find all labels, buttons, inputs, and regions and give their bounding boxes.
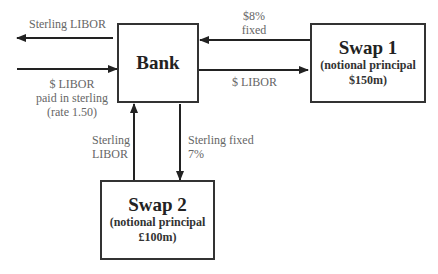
label-swap1-to-bank: $8% fixed: [234, 9, 274, 37]
label-bank-out-left: Sterling LIBOR: [29, 17, 106, 31]
bank-node: Bank: [117, 23, 199, 103]
swap2-subtitle-line2: £100m): [139, 230, 177, 245]
swap1-subtitle-line2: $150m): [349, 73, 387, 88]
label-in-bank-left: $ LIBOR paid in sterling (rate 1.50): [32, 77, 112, 119]
swap2-node: Swap 2 (notional principal £100m): [100, 180, 215, 260]
swap1-node: Swap 1 (notional principal $150m): [310, 23, 426, 103]
swap2-title: Swap 2: [128, 195, 187, 216]
swap1-subtitle-line1: (notional principal: [320, 58, 416, 73]
swap1-title: Swap 1: [339, 38, 398, 59]
label-swap2-to-bank: Sterling LIBOR: [92, 133, 130, 161]
label-bank-to-swap1: $ LIBOR: [232, 75, 277, 89]
swap2-subtitle-line1: (notional principal: [110, 215, 206, 230]
label-bank-to-swap2: Sterling fixed 7%: [188, 133, 254, 161]
bank-title: Bank: [136, 53, 179, 74]
